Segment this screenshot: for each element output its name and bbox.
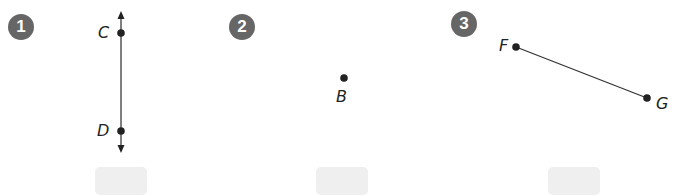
problem-number-badge: 1 (8, 14, 34, 40)
answer-box[interactable] (95, 167, 147, 195)
line-cd (117, 11, 125, 153)
answer-box[interactable] (316, 167, 368, 195)
point-label-b: B (336, 87, 347, 106)
problem-number-badge: 2 (229, 14, 255, 40)
point-d (117, 127, 125, 135)
point-label-c: C (98, 23, 109, 42)
arrow-up-icon (118, 11, 125, 19)
point-label-g: G (656, 94, 668, 113)
arrow-down-icon (118, 145, 125, 153)
point-label-f: F (499, 36, 508, 55)
point-f (512, 43, 520, 51)
problem-number-badge: 3 (451, 11, 477, 37)
point-label-d: D (97, 121, 109, 140)
point-b (340, 74, 348, 82)
segment-fg (512, 43, 651, 102)
answer-box[interactable] (548, 167, 600, 195)
point-g (643, 94, 651, 102)
point-c (117, 29, 125, 37)
